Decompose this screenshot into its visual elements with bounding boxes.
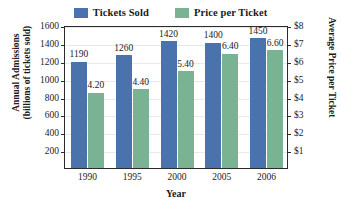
y-axis-tick-label-left: 1400: [40, 40, 59, 50]
plot-area: 2004006008001000120014001600$1$2$3$4$5$6…: [64, 26, 288, 169]
y-axis-title-left: Annual Admissions (billions of tickets s…: [11, 0, 32, 148]
bar-price-per-ticket-1995: 4.40: [133, 89, 149, 168]
y-axis-tick-label-right: $5: [294, 76, 304, 86]
y-axis-tick-label-left: 1000: [40, 76, 59, 86]
bar-value-label: 6.60: [267, 39, 284, 49]
bar-fill: [267, 50, 283, 168]
y-axis-tick-label-right: $2: [294, 129, 304, 139]
y-axis-tick-label-right: $4: [294, 94, 304, 104]
y-axis-tick-label-left: 600: [45, 111, 59, 121]
legend-swatch-price-per-ticket: [175, 8, 189, 18]
y-axis-tick-right: [287, 116, 291, 117]
y-axis-tick-right: [287, 134, 291, 135]
y-axis-tick-left: [61, 63, 65, 64]
bar-price-per-ticket-2000: 5.40: [178, 71, 194, 168]
y-axis-tick-label-right: $1: [294, 147, 304, 157]
x-axis-title: Year: [64, 188, 288, 199]
x-axis-tick-label: 2000: [168, 173, 187, 183]
bar-tickets-sold-2005: 1400: [205, 43, 221, 168]
y-axis-title-left-line1: Annual Admissions: [11, 33, 21, 111]
y-axis-tick-label-right: $8: [294, 22, 304, 32]
y-axis-tick-left: [61, 99, 65, 100]
bar-fill: [178, 71, 194, 168]
bar-value-label: 1450: [249, 27, 268, 37]
y-axis-tick-left: [61, 27, 65, 28]
legend-label-tickets-sold: Tickets Sold: [93, 8, 149, 19]
legend-swatch-tickets-sold: [74, 8, 88, 18]
bar-tickets-sold-1995: 1260: [116, 55, 132, 168]
bar-tickets-sold-2000: 1420: [161, 41, 177, 168]
bar-value-label: 4.40: [132, 78, 149, 88]
y-axis-tick-right: [287, 45, 291, 46]
y-axis-tick-label-left: 1600: [40, 22, 59, 32]
bar-price-per-ticket-1990: 4.20: [88, 93, 104, 168]
bar-fill: [71, 62, 87, 168]
bar-price-per-ticket-2005: 6.40: [222, 54, 238, 168]
bar-price-per-ticket-2006: 6.60: [267, 50, 283, 168]
x-axis-tick-label: 1990: [78, 173, 97, 183]
y-axis-tick-right: [287, 152, 291, 153]
x-axis-tick-label: 1995: [123, 173, 142, 183]
bar-value-label: 1260: [114, 44, 133, 54]
y-axis-tick-label-right: $7: [294, 40, 304, 50]
bar-fill: [161, 41, 177, 168]
bar-fill: [222, 54, 238, 168]
y-axis-tick-label-left: 200: [45, 147, 59, 157]
y-axis-tick-left: [61, 134, 65, 135]
bar-tickets-sold-1990: 1190: [71, 62, 87, 168]
legend-label-price-per-ticket: Price per Ticket: [194, 8, 267, 19]
bar-value-label: 1400: [204, 31, 223, 41]
y-axis-title-left-line2: (billions of tickets sold): [22, 0, 33, 148]
y-axis-tick-left: [61, 81, 65, 82]
y-axis-tick-label-left: 400: [45, 129, 59, 139]
y-axis-tick-right: [287, 27, 291, 28]
y-axis-tick-label-right: $6: [294, 58, 304, 68]
bar-value-label: 1420: [159, 30, 178, 40]
bar-value-label: 5.40: [177, 60, 194, 70]
y-axis-title-right: Average Price per Ticket: [327, 0, 338, 142]
chart-legend: Tickets Sold Price per Ticket: [0, 5, 341, 21]
y-axis-tick-right: [287, 81, 291, 82]
bar-value-label: 6.40: [222, 42, 239, 52]
x-axis-tick-label: 2005: [212, 173, 231, 183]
y-axis-tick-left: [61, 116, 65, 117]
y-axis-tick-label-right: $3: [294, 111, 304, 121]
bar-fill: [250, 38, 266, 168]
y-axis-tick-right: [287, 99, 291, 100]
y-axis-tick-left: [61, 45, 65, 46]
bar-fill: [133, 89, 149, 168]
bar-tickets-sold-2006: 1450: [250, 38, 266, 168]
bar-value-label: 1190: [70, 50, 89, 60]
bar-value-label: 4.20: [88, 81, 105, 91]
y-axis-tick-label-left: 800: [45, 94, 59, 104]
bar-fill: [116, 55, 132, 168]
legend-entry-tickets-sold: Tickets Sold: [74, 8, 149, 19]
y-axis-tick-right: [287, 63, 291, 64]
bar-fill: [88, 93, 104, 168]
x-axis-tick-label: 2006: [257, 173, 276, 183]
bar-fill: [205, 43, 221, 168]
y-axis-tick-label-left: 1200: [40, 58, 59, 68]
y-axis-tick-left: [61, 152, 65, 153]
legend-entry-price-per-ticket: Price per Ticket: [175, 8, 267, 19]
bar-chart-figure: Tickets Sold Price per Ticket Annual Adm…: [0, 0, 341, 205]
